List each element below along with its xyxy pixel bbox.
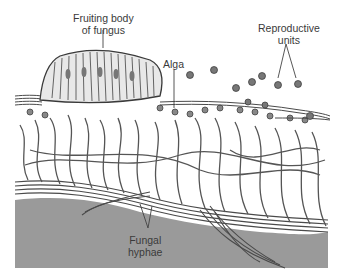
label-fungal-hyphae-line2: hyphae (128, 246, 162, 258)
fruiting-body (40, 50, 162, 102)
label-fruiting-body: Fruiting body of fungus (73, 12, 134, 36)
label-reproductive-units-line2: units (258, 34, 320, 46)
label-fruiting-body-line1: Fruiting body (73, 12, 134, 24)
label-reproductive-units-line1: Reproductive (258, 22, 320, 34)
label-reproductive-units: Reproductive units (258, 22, 320, 46)
label-fungal-hyphae-line1: Fungal (128, 234, 162, 246)
substrate (15, 198, 328, 268)
label-alga: Alga (163, 58, 184, 70)
label-fruiting-body-line2: of fungus (73, 24, 134, 36)
upper-cortex-left (15, 95, 42, 105)
label-fungal-hyphae: Fungal hyphae (128, 234, 162, 258)
